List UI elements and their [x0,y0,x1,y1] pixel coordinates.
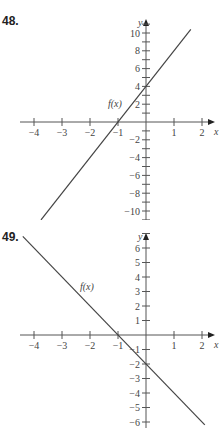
chart-49: −4−3−2−112654321−1−2−3−4−5−6xyf(x) [0,0,222,428]
y-axis-arrow-icon [143,233,149,240]
svg-text:−2: −2 [129,359,140,370]
svg-text:1: 1 [172,340,177,351]
svg-text:−4: −4 [129,388,140,399]
svg-text:−1: −1 [113,340,124,351]
svg-text:4: 4 [135,272,140,283]
svg-text:−1: −1 [129,344,140,355]
function-line [23,236,205,425]
svg-text:f(x): f(x) [80,281,95,293]
svg-text:−6: −6 [129,417,140,428]
svg-text:x: x [213,339,219,350]
svg-text:2: 2 [200,340,205,351]
svg-text:5: 5 [135,257,140,268]
x-axis-arrow-icon [208,332,215,338]
svg-text:6: 6 [135,243,140,254]
svg-text:−3: −3 [129,373,140,384]
svg-text:−5: −5 [129,402,140,413]
svg-text:3: 3 [135,286,140,297]
svg-text:−2: −2 [85,340,96,351]
svg-text:−3: −3 [57,340,68,351]
svg-text:y: y [137,231,143,242]
svg-text:1: 1 [135,315,140,326]
svg-text:−4: −4 [29,340,40,351]
svg-text:2: 2 [135,301,140,312]
